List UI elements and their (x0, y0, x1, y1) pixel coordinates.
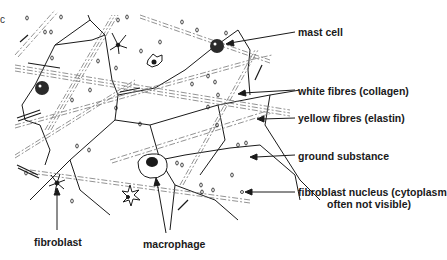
cropped-text-fragment: c (0, 14, 5, 25)
mast-cell-left (35, 81, 49, 95)
label-mast-cell: mast cell (298, 26, 343, 38)
macrophage-small (147, 54, 162, 67)
mast-cell (210, 39, 224, 53)
macrophage (138, 154, 167, 178)
label-fibroblast: fibroblast (34, 236, 82, 248)
fibroblast-2 (122, 185, 140, 206)
fibroblast-3 (110, 33, 127, 54)
leader-lines (54, 32, 295, 233)
label-ground-substance: ground substance (298, 150, 389, 162)
label-fibroblast-nucleus-line2: often not visible) (327, 198, 411, 210)
label-white-fibres: white fibres (collagen) (298, 85, 409, 97)
label-fibroblast-nucleus-line1: fibroblast nucleus (cytoplasm (298, 186, 447, 198)
label-macrophage: macrophage (143, 238, 205, 250)
label-yellow-fibres: yellow fibres (elastin) (298, 112, 405, 124)
